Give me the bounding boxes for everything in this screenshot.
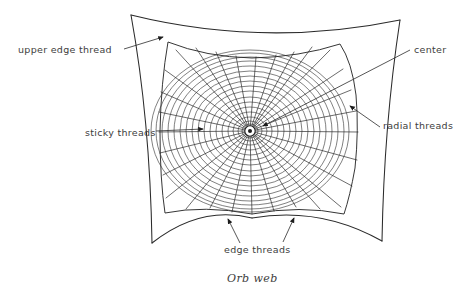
leader-sticky-threads bbox=[156, 129, 203, 131]
label-center: center bbox=[414, 44, 446, 55]
center-hub-inner bbox=[248, 129, 252, 133]
radial-thread bbox=[250, 131, 358, 132]
label-sticky-threads: sticky threads bbox=[85, 127, 156, 138]
leader-upper-edge-thread bbox=[124, 37, 163, 49]
radial-thread bbox=[250, 50, 330, 131]
lower-edge-thread-left bbox=[152, 215, 252, 243]
radial-thread bbox=[250, 131, 252, 214]
upper-edge-thread-line bbox=[131, 15, 400, 33]
web-frame-threads bbox=[131, 15, 400, 243]
radial-thread bbox=[250, 111, 356, 131]
lower-edge-thread-right bbox=[252, 215, 382, 241]
radial-thread bbox=[159, 131, 250, 132]
radial-thread bbox=[163, 131, 250, 175]
leader-radial-threads bbox=[350, 106, 380, 127]
label-edge-threads: edge threads bbox=[224, 244, 290, 255]
figure-canvas: upper edge thread center radial threads … bbox=[0, 0, 470, 300]
radial-thread bbox=[176, 50, 250, 131]
radial-thread bbox=[250, 69, 343, 131]
radial-thread bbox=[210, 131, 250, 208]
leader-edge-threads-right bbox=[283, 218, 294, 242]
label-radial-threads: radial threads bbox=[383, 120, 453, 131]
figure-caption: Orb web bbox=[227, 272, 278, 285]
radial-thread bbox=[250, 57, 256, 131]
label-upper-edge-thread: upper edge thread bbox=[18, 44, 112, 55]
outer-ring-path bbox=[160, 42, 357, 214]
web-center-hub bbox=[245, 126, 255, 136]
web-outer-anchor-ring bbox=[160, 42, 357, 214]
radial-thread bbox=[250, 55, 276, 131]
leader-edge-threads-left bbox=[228, 219, 240, 243]
radial-thread bbox=[250, 131, 341, 207]
